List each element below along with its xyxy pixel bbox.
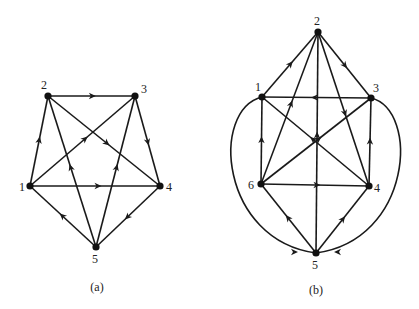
- node-label-a-1: 1: [19, 180, 25, 194]
- arrow-5-to-2-icon: [67, 163, 75, 172]
- edge-5-to-3: [96, 96, 135, 247]
- node-a-5: [92, 243, 99, 250]
- node-a-1: [26, 182, 33, 189]
- node-b-5: [312, 249, 319, 256]
- graph-a: 12345(a): [19, 78, 172, 294]
- node-a-4: [156, 182, 163, 189]
- node-label-b-5: 5: [312, 258, 318, 272]
- node-label-b-1: 1: [255, 80, 261, 94]
- caption-b: (b): [309, 283, 323, 297]
- node-b-2: [314, 28, 321, 35]
- edge-2-to-4: [48, 96, 160, 186]
- arrow-1-to-5-icon: [291, 249, 298, 255]
- edge-2-to-4: [318, 32, 369, 186]
- node-a-2: [44, 92, 51, 99]
- arrow-3-to-5-icon: [334, 249, 341, 255]
- node-label-b-3: 3: [373, 81, 379, 95]
- node-label-b-2: 2: [314, 14, 320, 28]
- graph-b: 123456(b): [231, 14, 401, 297]
- edge-3-to-1: [262, 97, 371, 98]
- node-label-b-4: 4: [374, 181, 380, 195]
- caption-a: (a): [90, 280, 103, 294]
- node-a-3: [131, 92, 138, 99]
- node-b-6: [257, 180, 264, 187]
- node-b-1: [258, 93, 265, 100]
- node-b-3: [367, 94, 374, 101]
- node-label-a-3: 3: [141, 82, 147, 96]
- arrow-6-to-2-icon: [287, 99, 295, 108]
- node-label-b-6: 6: [248, 178, 254, 192]
- node-label-a-5: 5: [92, 252, 98, 266]
- node-label-a-4: 4: [166, 180, 172, 194]
- node-b-4: [365, 182, 372, 189]
- digraph-figure: 12345(a) 123456(b): [0, 0, 419, 309]
- edge-5-to-2: [316, 32, 318, 253]
- node-label-a-2: 2: [41, 78, 47, 92]
- edge-4-to-1: [262, 97, 369, 186]
- curved-edge-3-to-5: [316, 98, 400, 253]
